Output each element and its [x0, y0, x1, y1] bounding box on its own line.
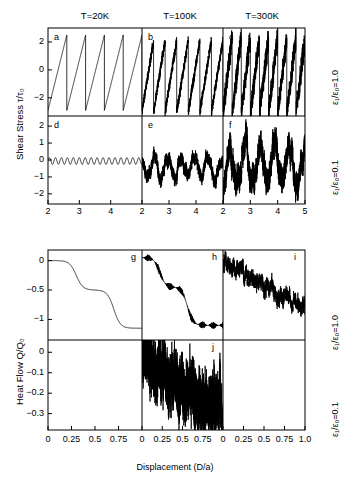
panel-letter-h: h [212, 252, 217, 262]
trace-panel-i [223, 251, 305, 317]
panel-letter-g: g [131, 252, 136, 262]
trace-panel-g [48, 261, 142, 329]
trace-panel-b [142, 36, 223, 117]
panel-letter-j: j [212, 342, 214, 352]
trace-panel-c [223, 25, 305, 124]
trace-panel-j [142, 319, 223, 457]
trace-panel-a [48, 35, 142, 110]
panel-letter-b: b [148, 32, 153, 42]
trace-panel-d [48, 158, 142, 165]
panel-letter-i: i [294, 252, 296, 262]
panel-letter-e: e [148, 120, 153, 130]
panel-letter-a: a [54, 32, 59, 42]
panel-letter-d: d [54, 120, 59, 130]
trace-panel-f [223, 119, 305, 206]
heatflow-plot-group [0, 245, 350, 490]
figure-canvas: T=20K T=100K T=300K Shear Stress τ/τ₀ ε₁… [0, 0, 350, 490]
trace-panel-h [142, 255, 223, 329]
panel-letter-c: c [229, 32, 234, 42]
stress-plot-group [0, 0, 350, 215]
trace-panel-e [142, 147, 223, 189]
panel-letter-f: f [229, 120, 232, 130]
